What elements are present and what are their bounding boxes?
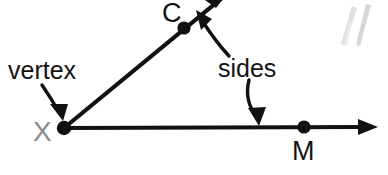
point-m-dot [297, 120, 310, 133]
point-m [297, 120, 310, 133]
sides-label: sides [218, 54, 276, 82]
point-m-label: M [292, 136, 315, 166]
ray-xm-line [64, 127, 364, 128]
angle-geometry-figure: vertex sides C X M [0, 0, 388, 175]
point-c-label: C [162, 0, 182, 28]
point-x-dot [57, 121, 71, 135]
point-x [57, 121, 71, 135]
figure-background [0, 0, 388, 175]
point-x-label: X [33, 116, 52, 147]
vertex-label: vertex [8, 56, 77, 84]
